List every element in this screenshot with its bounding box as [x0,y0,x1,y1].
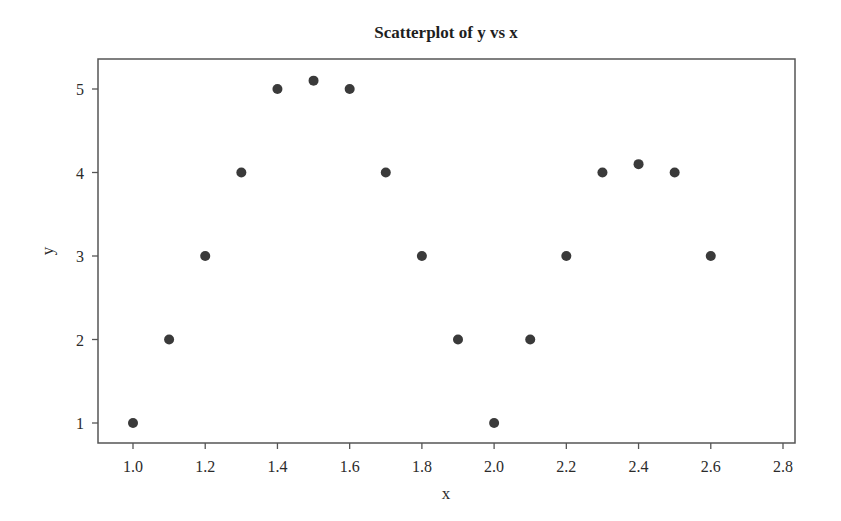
data-point [706,251,716,261]
data-point [489,418,499,428]
x-tick-label: 2.4 [629,458,649,475]
plot-area-frame [98,59,795,443]
y-tick-label: 2 [76,332,84,349]
x-tick-label: 2.0 [484,458,504,475]
data-point [309,76,319,86]
y-tick-label: 3 [76,248,84,265]
x-tick-label: 1.6 [340,458,360,475]
data-point [345,84,355,94]
data-point [272,84,282,94]
data-point [381,168,391,178]
data-point [200,251,210,261]
data-point [597,168,607,178]
y-axis-label: y [38,246,57,255]
x-tick-label: 2.6 [701,458,721,475]
x-tick-label: 2.2 [556,458,576,475]
x-tick-label: 1.4 [267,458,287,475]
x-axis-label: x [442,484,451,503]
data-point [128,418,138,428]
x-axis-ticks: 1.01.21.41.61.82.02.22.42.62.8 [123,443,793,475]
data-point [634,159,644,169]
data-point [670,168,680,178]
data-point [236,168,246,178]
y-axis-ticks: 12345 [76,81,98,432]
y-tick-label: 1 [76,415,84,432]
data-points [128,76,716,428]
x-tick-label: 1.2 [195,458,215,475]
x-tick-label: 1.8 [412,458,432,475]
x-tick-label: 1.0 [123,458,143,475]
data-point [525,335,535,345]
data-point [561,251,571,261]
chart-title: Scatterplot of y vs x [374,23,518,42]
data-point [417,251,427,261]
y-tick-label: 4 [76,165,84,182]
x-tick-label: 2.8 [773,458,793,475]
data-point [453,335,463,345]
data-point [164,335,174,345]
scatter-chart: Scatterplot of y vs x 1.01.21.41.61.82.0… [0,0,841,521]
y-tick-label: 5 [76,81,84,98]
